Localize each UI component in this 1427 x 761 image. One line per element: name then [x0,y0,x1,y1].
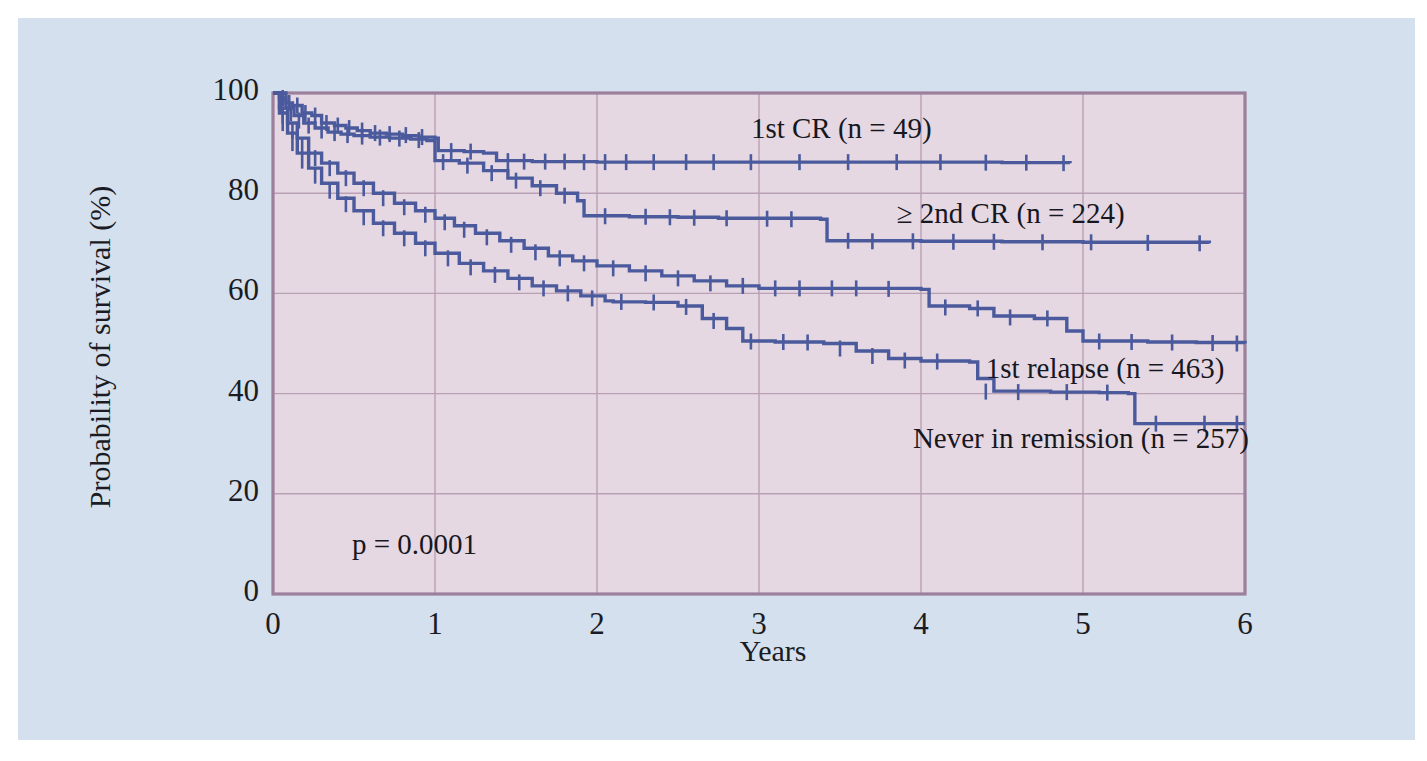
y-tick-label: 40 [173,373,259,409]
x-tick-label: 6 [1215,606,1275,642]
x-tick-label: 3 [729,606,789,642]
kaplan-meier-survival-chart: Probability of survival (%) Years p = 0.… [0,0,1427,761]
y-tick-label: 100 [173,72,259,108]
p-value-annotation: p = 0.0001 [352,528,477,561]
x-tick-label: 5 [1053,606,1113,642]
y-tick-label: 80 [173,172,259,208]
curve-label-1: ≥ 2nd CR (n = 224) [897,197,1125,230]
y-axis-title: Probability of survival (%) [83,157,117,537]
y-tick-label: 20 [173,473,259,509]
y-tick-label: 60 [173,272,259,308]
x-tick-label: 1 [405,606,465,642]
curve-label-0: 1st CR (n = 49) [751,112,932,145]
curve-label-2: 1st relapse (n = 463) [986,352,1225,385]
x-tick-label: 2 [567,606,627,642]
x-tick-label: 4 [891,606,951,642]
y-tick-label: 0 [173,573,259,609]
curve-label-3: Never in remission (n = 257) [913,422,1249,455]
x-tick-label: 0 [243,606,303,642]
